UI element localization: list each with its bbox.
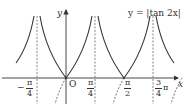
tick-neg-pi-4-num: π <box>26 79 33 89</box>
tick-neg-pi-4-sign: − <box>17 82 25 92</box>
dashed-tan-branch-2 <box>113 78 124 104</box>
tick-pi-2: π 2 <box>124 79 131 98</box>
curve-branch-4 <box>156 16 174 63</box>
tick-neg-pi-4: π 4 <box>26 79 33 98</box>
tick-pi-4-den: 4 <box>88 89 93 98</box>
tick-3pi-4-suffix: π <box>163 84 168 92</box>
equation-label: y = |tan 2x| <box>128 9 181 18</box>
y-axis-label: y <box>57 9 62 18</box>
tick-pi-2-den: 2 <box>125 89 130 98</box>
origin-point <box>65 77 67 79</box>
tick-3pi-4: 3 4 <box>155 79 162 98</box>
tick-pi-4: π 4 <box>87 79 94 98</box>
tick-neg-pi-4-den: 4 <box>27 89 32 98</box>
curve-branch-3 <box>98 16 150 78</box>
dashed-tan-branch-1 <box>55 78 66 104</box>
tick-pi-2-num: π <box>124 79 131 89</box>
curve-branch-1 <box>16 16 34 63</box>
x-axis-label: x <box>178 80 183 89</box>
tick-3pi-4-den: 4 <box>156 89 161 98</box>
tick-3pi-4-num: 3 <box>155 79 162 89</box>
origin-label: O <box>69 80 76 89</box>
equation-text: y = |tan 2x| <box>128 8 181 18</box>
tick-pi-4-num: π <box>87 79 94 89</box>
